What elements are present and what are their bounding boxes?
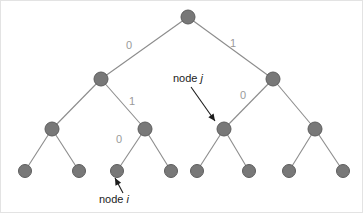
edge-label-L-LR: 1 bbox=[129, 95, 135, 107]
tree-node-LL[interactable] bbox=[45, 122, 59, 136]
annotation-prefix-node-j: node bbox=[173, 72, 201, 84]
tree-node-LLL[interactable] bbox=[19, 165, 32, 178]
tree-edges-layer bbox=[25, 17, 343, 171]
tree-diagram-container: 01100 node jnode i bbox=[0, 0, 363, 213]
tree-node-LRR[interactable] bbox=[165, 165, 178, 178]
tree-edge-R-RR bbox=[273, 79, 315, 129]
binary-tree-figure: 01100 node jnode i bbox=[1, 1, 363, 213]
tree-edge-L-LL bbox=[52, 79, 101, 129]
tree-node-R[interactable] bbox=[266, 72, 280, 86]
annotation-symbol-node-i: i bbox=[127, 193, 130, 205]
edge-label-R-RL: 0 bbox=[240, 89, 246, 101]
tree-node-RLR[interactable] bbox=[243, 165, 256, 178]
edge-label-root-R: 1 bbox=[230, 37, 236, 49]
tree-node-RLL[interactable] bbox=[191, 165, 204, 178]
annotation-label-node-i: node i bbox=[99, 193, 130, 205]
tree-node-RRL[interactable] bbox=[283, 165, 296, 178]
edge-label-root-L: 0 bbox=[126, 39, 132, 51]
tree-nodes-layer bbox=[19, 10, 350, 178]
tree-node-RL[interactable] bbox=[217, 122, 231, 136]
annotation-arrowhead-node-j bbox=[208, 113, 215, 121]
tree-node-LLR[interactable] bbox=[73, 165, 86, 178]
tree-node-L[interactable] bbox=[94, 72, 108, 86]
tree-edge-L-LR bbox=[101, 79, 145, 129]
annotation-prefix-node-i: node bbox=[99, 193, 127, 205]
tree-node-LRL[interactable] bbox=[111, 165, 124, 178]
tree-edge-R-RL bbox=[224, 79, 273, 129]
annotation-label-node-j: node j bbox=[173, 72, 204, 84]
tree-edge-root-L bbox=[101, 17, 188, 79]
tree-node-RR[interactable] bbox=[308, 122, 322, 136]
tree-node-LR[interactable] bbox=[138, 122, 152, 136]
tree-edge-RR-RRR bbox=[315, 129, 343, 171]
tree-node-RRR[interactable] bbox=[337, 165, 350, 178]
edge-label-LR-LRL: 0 bbox=[116, 133, 122, 145]
tree-node-root[interactable] bbox=[181, 10, 195, 24]
